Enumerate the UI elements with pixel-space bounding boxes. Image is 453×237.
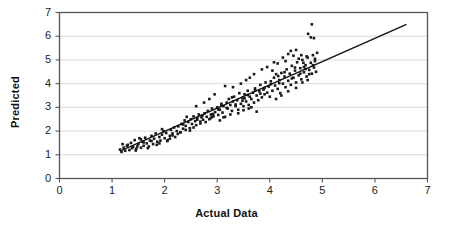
data-point: [309, 61, 312, 64]
data-point: [257, 99, 260, 102]
data-point: [213, 93, 216, 96]
data-point: [169, 135, 172, 138]
trend-line-path: [120, 24, 407, 151]
data-point: [300, 54, 303, 57]
data-point: [287, 53, 290, 56]
data-point: [184, 129, 187, 132]
data-point: [255, 110, 258, 113]
data-point: [204, 121, 207, 124]
data-point: [144, 136, 147, 139]
x-tick-label: 4: [259, 184, 281, 196]
data-point: [250, 106, 253, 109]
data-point: [140, 146, 143, 149]
data-point: [259, 92, 262, 95]
scatter-markers: [119, 23, 319, 153]
data-point: [161, 128, 164, 131]
data-point: [300, 78, 303, 81]
data-point: [268, 95, 271, 98]
data-point: [219, 119, 222, 122]
data-point: [275, 98, 278, 101]
data-point: [315, 70, 318, 73]
data-point: [247, 107, 250, 110]
y-tick-label: 2: [33, 124, 51, 136]
data-point: [301, 81, 304, 84]
data-point: [245, 100, 248, 103]
data-point: [221, 111, 224, 114]
data-point: [192, 115, 195, 118]
data-point: [191, 123, 194, 126]
data-point: [271, 89, 274, 92]
data-point: [133, 139, 136, 142]
y-axis-title: Predicted: [9, 60, 21, 144]
data-point: [199, 122, 202, 125]
data-point: [305, 55, 308, 58]
data-point: [261, 96, 264, 99]
x-tick-label: 1: [101, 184, 123, 196]
data-point: [176, 133, 179, 136]
data-point: [163, 137, 166, 140]
data-point: [259, 84, 262, 87]
data-point: [171, 134, 174, 137]
data-point: [290, 84, 293, 87]
data-point: [307, 33, 310, 36]
data-point: [189, 127, 192, 130]
data-point: [237, 112, 240, 115]
data-point: [196, 118, 199, 121]
data-point: [183, 119, 186, 122]
data-point: [314, 57, 317, 60]
data-point: [253, 101, 256, 104]
data-point: [147, 147, 150, 150]
trend-line: [120, 24, 407, 151]
data-point: [273, 76, 276, 79]
data-point: [182, 127, 185, 130]
y-tick-label: 5: [33, 53, 51, 65]
data-point: [231, 110, 234, 113]
data-point: [316, 52, 319, 55]
data-point: [159, 139, 162, 142]
data-point: [145, 142, 148, 145]
data-point: [140, 138, 143, 141]
gridlines: [60, 13, 428, 155]
data-point: [158, 142, 161, 145]
data-point: [255, 94, 258, 97]
data-point: [125, 144, 128, 147]
data-point: [308, 69, 311, 72]
data-point: [282, 56, 285, 59]
data-point: [195, 124, 198, 127]
data-point: [308, 73, 311, 76]
data-point: [287, 90, 290, 93]
data-point: [131, 147, 134, 150]
x-tick-label: 5: [311, 184, 333, 196]
data-point: [208, 98, 211, 101]
data-point: [212, 113, 215, 116]
data-point: [166, 140, 169, 143]
data-point: [240, 103, 243, 106]
data-point: [238, 92, 241, 95]
data-point: [155, 144, 158, 147]
data-point: [311, 72, 314, 75]
data-point: [189, 129, 192, 132]
data-point: [266, 66, 269, 69]
data-point: [243, 97, 246, 100]
y-tick-label: 6: [33, 29, 51, 41]
data-point: [263, 93, 266, 96]
y-tick-label: 1: [33, 148, 51, 160]
data-point: [229, 104, 232, 107]
x-axis-title: Actual Data: [0, 207, 453, 219]
data-point: [261, 68, 264, 71]
data-point: [246, 89, 249, 92]
data-point: [142, 144, 145, 147]
data-point: [169, 137, 172, 140]
data-point: [245, 79, 248, 82]
data-point: [266, 91, 269, 94]
y-tick-label: 0: [33, 172, 51, 184]
data-point: [291, 77, 294, 80]
data-point: [237, 108, 240, 111]
data-point: [150, 140, 153, 143]
data-point: [283, 71, 286, 74]
data-point: [195, 105, 198, 108]
data-point: [134, 149, 137, 152]
data-point: [217, 114, 220, 117]
data-point: [313, 37, 316, 40]
data-point: [158, 136, 161, 139]
